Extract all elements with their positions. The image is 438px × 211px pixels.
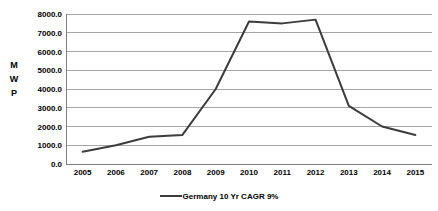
legend-label: Germany 10 Yr CAGR 9% [183,192,279,201]
x-tick-label-2007: 2007 [132,168,166,177]
line-chart: M W P 0.01000.02000.03000.04000.05000.06… [0,0,438,211]
y-tick-label-5000.0: 5000.0 [22,66,62,75]
x-axis-tick-labels: 2005200620072008200920102011201220132014… [66,168,432,182]
y-tick-label-1000.0: 1000.0 [22,141,62,150]
data-series-group [83,20,416,152]
x-tick-label-2009: 2009 [199,168,233,177]
y-axis-title-char-1: W [6,72,22,86]
x-tick-label-2005: 2005 [66,168,100,177]
legend-line-swatch [160,195,182,197]
x-tick-label-2008: 2008 [165,168,199,177]
plot-svg [66,8,432,165]
y-tick-label-4000.0: 4000.0 [22,85,62,94]
y-axis-tick-labels: 0.01000.02000.03000.04000.05000.06000.07… [22,0,62,172]
plot-area [66,8,432,165]
x-tick-label-2012: 2012 [299,168,333,177]
y-tick-label-2000.0: 2000.0 [22,122,62,131]
x-tick-label-2006: 2006 [99,168,133,177]
y-axis-title: M W P [6,58,22,100]
chart-legend: Germany 10 Yr CAGR 9% [0,188,438,204]
gridlines [66,14,432,164]
y-tick-label-0.0: 0.0 [22,160,62,169]
y-axis-title-char-0: M [6,58,22,72]
series-line-0 [83,20,416,152]
x-tick-label-2011: 2011 [265,168,299,177]
x-tick-label-2014: 2014 [365,168,399,177]
y-tick-label-7000.0: 7000.0 [22,28,62,37]
x-tick-label-2013: 2013 [332,168,366,177]
y-tick-label-8000.0: 8000.0 [22,10,62,19]
y-tick-label-3000.0: 3000.0 [22,103,62,112]
y-tick-label-6000.0: 6000.0 [22,47,62,56]
x-tick-label-2010: 2010 [232,168,266,177]
y-axis-title-char-2: P [6,86,22,100]
x-tick-label-2015: 2015 [398,168,432,177]
